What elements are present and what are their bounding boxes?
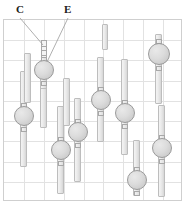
callout-label-e: E [64,4,71,15]
callout-label-c: C [16,4,24,15]
figure-canvas: C E [0,0,185,208]
probe-bar [63,78,70,126]
assembly-13 [0,0,185,208]
